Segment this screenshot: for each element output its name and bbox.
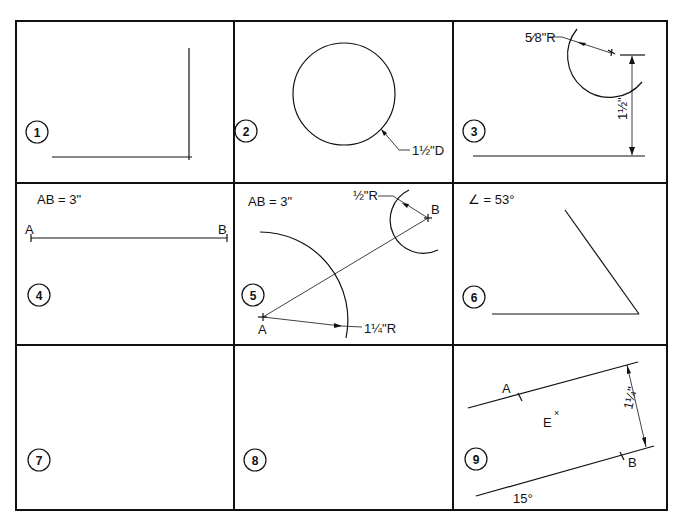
- point-b-label: B: [431, 202, 440, 217]
- point-a-label: A: [258, 322, 267, 337]
- point-e-label: E: [543, 415, 552, 430]
- arrowhead-icon: [334, 323, 342, 328]
- worksheet-drawing: 1 2 1½"D 3 1½" 5⁄8"R AB = 3" A B: [0, 0, 682, 527]
- point-b-label: B: [628, 455, 637, 470]
- cell-number: 4: [36, 289, 43, 303]
- cell-8: 8: [244, 449, 266, 471]
- cell-number: 1: [34, 126, 41, 140]
- cell-number: 7: [36, 454, 43, 468]
- grid-frame: [16, 21, 667, 510]
- cell-3: 3 1½" 5⁄8"R: [463, 29, 645, 156]
- spec-label: AB = 3": [248, 194, 292, 209]
- distance-label: 1¼": [620, 385, 640, 411]
- cell-number: 8: [252, 454, 259, 468]
- cell-7: 7: [28, 449, 50, 471]
- line-b: [476, 446, 654, 496]
- center-mark: [611, 49, 612, 56]
- point-b-label: B: [218, 222, 227, 237]
- line-a: [468, 362, 638, 408]
- cell-number: 2: [243, 125, 250, 139]
- cell-2: 2 1½"D: [235, 43, 444, 158]
- cell-1: 1: [26, 48, 192, 160]
- radius-a-label: 1¼"R: [364, 321, 396, 336]
- leader-line: [378, 196, 428, 218]
- arrowhead-icon: [629, 147, 635, 155]
- radius-b-label: ½"R: [353, 188, 378, 203]
- circle-shape: [293, 43, 395, 145]
- diameter-label: 1½"D: [412, 143, 444, 158]
- spec-label: AB = 3": [37, 192, 81, 207]
- spec-label: ∠ = 53°: [468, 192, 514, 207]
- cell-5: AB = 3" 5 A B ½"R 1¼"R: [242, 188, 440, 338]
- angle-label: 15°: [513, 491, 533, 506]
- cell-number: 3: [471, 125, 478, 139]
- leader-line: [549, 37, 611, 53]
- point-a-label: A: [502, 381, 511, 396]
- radius-label: 5⁄8"R: [525, 30, 556, 45]
- cell-number: 5: [250, 289, 257, 303]
- arrowhead-icon: [627, 365, 631, 374]
- point-e-mark: ×: [554, 408, 559, 418]
- angle-slant-line: [565, 210, 639, 314]
- cell-9: 9 A B E × 1¼" 15°: [465, 362, 654, 506]
- arrowhead-icon: [402, 203, 409, 208]
- arc-b: [390, 190, 438, 253]
- cell-4: AB = 3" A B 4: [25, 192, 227, 306]
- cell-6: ∠ = 53° 6: [463, 192, 639, 314]
- distance-label: 1½": [615, 97, 630, 120]
- arrowhead-icon: [577, 42, 586, 46]
- cell-number: 6: [471, 291, 478, 305]
- arrowhead-icon: [642, 437, 646, 447]
- cell-number: 9: [473, 453, 480, 467]
- arrowhead-icon: [629, 56, 635, 64]
- point-a-label: A: [25, 222, 34, 237]
